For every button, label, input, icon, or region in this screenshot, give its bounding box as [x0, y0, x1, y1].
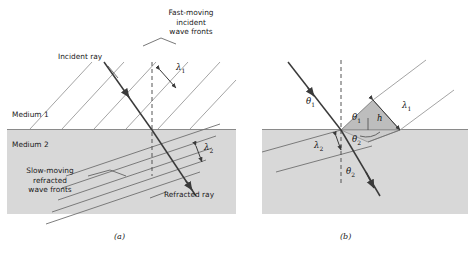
slow-wavefronts-line1: Slow-moving — [26, 166, 74, 175]
fast-wavefronts-line3: wave fronts — [169, 27, 212, 36]
panel-b-refracted-ray-arrow — [366, 172, 374, 188]
panel-b-incident-ray-arrow — [308, 88, 314, 96]
panel-a-incident-wavefronts — [30, 62, 236, 129]
panel-a-lambda1-measure — [160, 70, 176, 88]
fast-wavefronts-label: Fast-moving incident wave fronts — [152, 8, 230, 37]
panel-a-fast-wavefronts-leader — [143, 38, 176, 46]
panel-b-theta1-ray-subscript: 1 — [311, 101, 315, 108]
panel-b-h-symbol: h — [377, 113, 382, 123]
panel-a: Fast-moving incident wave fronts Inciden… — [0, 0, 240, 256]
panel-b-lambda1-subscript: 1 — [407, 105, 411, 112]
slow-wavefronts-label: Slow-moving refracted wave fronts — [14, 166, 86, 195]
panel-b-theta2-ray-subscript: 2 — [351, 171, 355, 178]
panel-a-refracted-ray-arrow — [186, 181, 192, 190]
panel-b: θ1 θ1 h λ1 θ2 λ2 θ2 (b) — [240, 0, 472, 256]
panel-b-lambda2-measure — [336, 136, 341, 150]
panel-b-h-label: h — [377, 113, 382, 123]
slow-wavefronts-line3: wave fronts — [28, 185, 71, 194]
refracted-ray-label: Refracted ray — [164, 190, 214, 200]
medium-2-label: Medium 2 — [12, 140, 49, 150]
panel-b-caption: (b) — [340, 232, 351, 241]
panel-b-graphics — [240, 0, 472, 256]
panel-b-lambda2-label: λ2 — [314, 140, 323, 152]
panel-a-lambda2-subscript: 2 — [209, 147, 213, 154]
medium-1-label: Medium 1 — [12, 110, 49, 120]
panel-b-lambda2-subscript: 2 — [319, 145, 323, 152]
panel-a-caption: (a) — [114, 232, 125, 241]
fast-wavefronts-line2: incident — [176, 18, 206, 27]
figure-root: Fast-moving incident wave fronts Inciden… — [0, 0, 472, 256]
panel-a-graphics — [0, 0, 240, 256]
panel-a-incident-ray-leader — [108, 66, 118, 78]
panel-b-lambda1-label: λ1 — [402, 100, 411, 112]
panel-a-lambda1-subscript: 1 — [181, 67, 185, 74]
panel-b-shaded-triangle-medium2 — [341, 130, 400, 142]
panel-a-lambda1-label: λ1 — [176, 62, 185, 74]
fast-wavefronts-line1: Fast-moving — [168, 8, 213, 17]
incident-ray-label: Incident ray — [58, 52, 102, 62]
panel-a-lambda2-measure — [196, 146, 202, 162]
panel-b-theta1-triangle-subscript: 1 — [357, 117, 361, 124]
panel-b-theta1-ray-label: θ1 — [306, 96, 315, 108]
panel-b-theta2-ray-label: θ2 — [346, 166, 355, 178]
panel-b-shaded-triangle-medium1 — [341, 100, 400, 130]
slow-wavefronts-line2: refracted — [33, 176, 67, 185]
panel-a-lambda2-label: λ2 — [204, 142, 213, 154]
panel-b-theta2-triangle-label: θ2 — [352, 134, 361, 146]
panel-b-theta1-triangle-label: θ1 — [352, 112, 361, 124]
panel-b-theta2-triangle-subscript: 2 — [357, 139, 361, 146]
